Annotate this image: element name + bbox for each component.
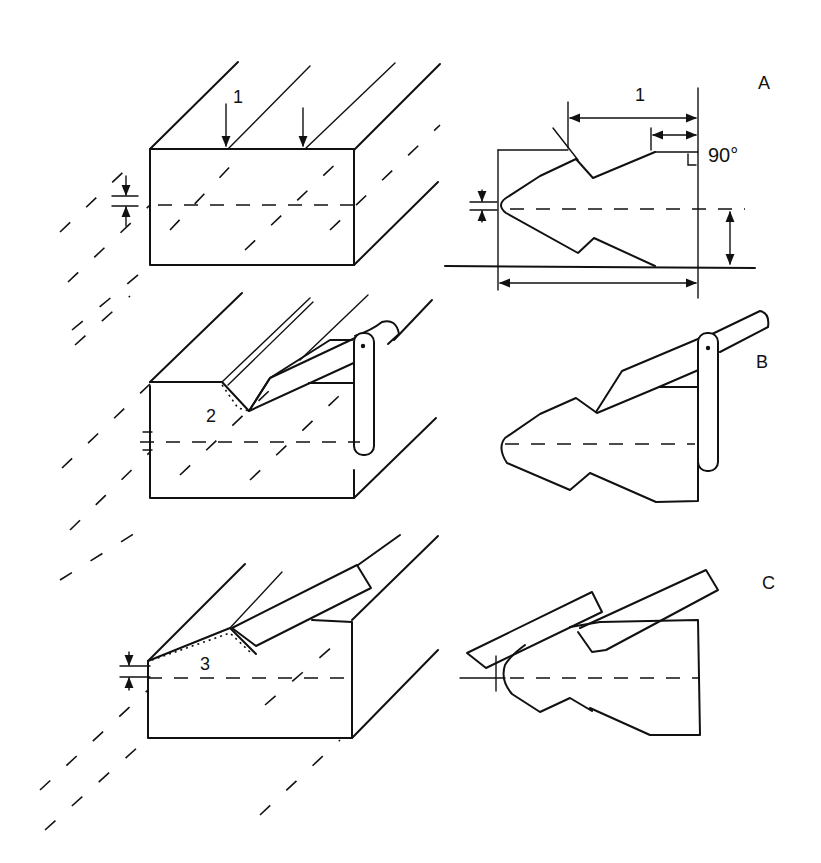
dimension-label-1: 1: [635, 85, 645, 105]
step-label-1: 1: [233, 87, 243, 107]
row-b-block-view: [62, 293, 436, 530]
diagram-canvas: 1 1 90° A: [0, 0, 821, 863]
row-c-profile-view: [460, 570, 718, 735]
step-label-2: 2: [206, 406, 216, 426]
row-label-a: A: [758, 73, 770, 93]
row-c-block-view: [40, 530, 438, 830]
row-b-profile-view: [501, 311, 768, 502]
row-a-block-view: [60, 62, 440, 330]
row-label-b: B: [756, 352, 768, 372]
row-label-c: C: [762, 573, 775, 593]
row-a-profile-view: [445, 88, 755, 298]
angle-annotation: 90°: [708, 144, 738, 166]
step-label-3: 3: [200, 654, 210, 674]
